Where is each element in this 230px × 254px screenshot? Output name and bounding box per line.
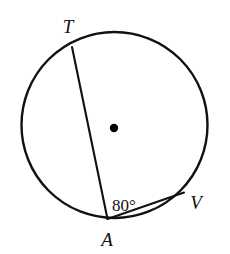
- circle-geometry-figure: T A V 80°: [0, 0, 230, 254]
- center-dot: [110, 124, 118, 132]
- point-label-t: T: [63, 16, 75, 37]
- geometry-diagram: T A V 80°: [0, 0, 230, 254]
- point-label-a: A: [99, 229, 113, 250]
- angle-label-tav: 80°: [112, 196, 136, 215]
